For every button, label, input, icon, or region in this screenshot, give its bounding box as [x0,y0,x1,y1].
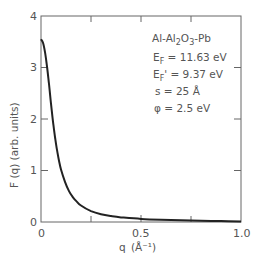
y-tick-label-3: 3 [30,61,37,74]
annotation-s: s = 25 Å [155,85,201,97]
annotation-system: Al-Al2O3-Pb [152,32,211,47]
x-tick-label-1-0: 1.0 [233,227,251,240]
x-axis-label-q: q [119,241,126,253]
y-ticks [41,68,241,171]
y-tick-label-1: 1 [30,164,37,177]
plot-frame [41,16,241,222]
chart-figure: 0 1 2 3 4 0 0.5 1.0 q (Å⁻¹) F (q) (arb. … [0,0,259,263]
x-axis-label-unit: (Å⁻¹) [131,241,156,253]
x-tick-label-0-5: 0.5 [132,227,150,240]
y-tick-label-4: 4 [30,10,37,23]
y-axis-label: F (q) (arb. units) [8,102,20,188]
y-tick-label-2: 2 [30,113,37,126]
annotation-ef: EF = 11.63 eV [153,51,228,66]
annotation-block: Al-Al2O3-Pb EF = 11.63 eV EF' = 9.37 eV … [152,32,228,114]
f-of-q-curve [41,39,241,221]
y-tick-label-0: 0 [30,216,37,229]
annotation-phi: φ = 2.5 eV [154,102,211,114]
annotation-efprime: EF' = 9.37 eV [153,68,224,83]
x-tick-label-0: 0 [38,227,45,240]
